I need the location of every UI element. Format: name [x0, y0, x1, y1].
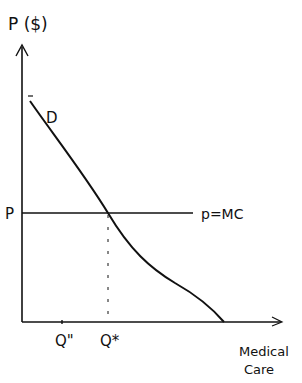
price-line-label: p=MC — [201, 206, 244, 222]
q-star-label: Q* — [100, 332, 120, 350]
x-axis-label-line1: Medical — [239, 344, 289, 359]
price-tick-label: P — [5, 205, 14, 223]
demand-curve — [30, 101, 224, 322]
y-axis-label: P ($) — [8, 14, 48, 34]
x-axis-label-line2: Care — [244, 362, 274, 377]
demand-diagram: P ($) P p=MC D Q" Q* Medical Care — [0, 0, 302, 383]
demand-label: D — [46, 109, 58, 127]
q-double-prime-label: Q" — [55, 332, 74, 350]
